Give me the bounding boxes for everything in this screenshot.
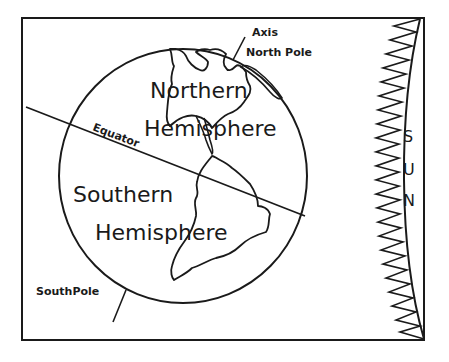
sun-label-s: S (403, 127, 413, 146)
equator-label: Equator (91, 121, 142, 151)
north-pole-label: North Pole (246, 46, 312, 59)
hemisphere-diagram: Axis North Pole SouthPole Equator Northe… (0, 0, 449, 362)
sun-label-n: N (403, 191, 415, 210)
south-america-outline (171, 156, 270, 280)
northern-hemisphere-label-line1: Northern (150, 78, 248, 103)
axis-line-south (113, 290, 126, 322)
southern-hemisphere-label-line2: Hemisphere (95, 220, 228, 245)
diagram-canvas: Axis North Pole SouthPole Equator Northe… (0, 0, 449, 362)
sun-label-u: U (403, 160, 415, 179)
southern-hemisphere-label-line1: Southern (73, 182, 173, 207)
axis-line-north (233, 37, 245, 60)
south-pole-label: SouthPole (36, 285, 99, 298)
sun-rays (376, 19, 424, 339)
sun-edge-arc (404, 19, 424, 339)
axis-label: Axis (252, 26, 278, 39)
northern-hemisphere-label-line2: Hemisphere (144, 116, 277, 141)
